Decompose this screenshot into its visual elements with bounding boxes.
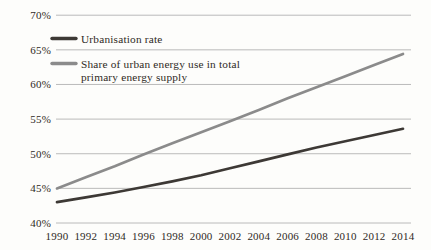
legend-label-share-of-urban-energy-use-in-total-primary-energy-supply-line-2: primary energy supply (81, 71, 187, 83)
x-tick-label-2012: 2012 (363, 230, 386, 242)
x-tick-label-2000: 2000 (190, 230, 213, 242)
y-tick-label-50: 50% (30, 148, 51, 160)
x-tick-label-2008: 2008 (305, 230, 328, 242)
x-tick-label-2014: 2014 (392, 230, 415, 242)
x-tick-label-2002: 2002 (219, 230, 242, 242)
y-tick-label-60: 60% (30, 78, 51, 90)
line-chart: 40%45%50%55%60%65%70%1990199219941996199… (0, 0, 431, 250)
x-tick-label-1994: 1994 (103, 230, 126, 242)
x-tick-label-2004: 2004 (247, 230, 270, 242)
legend-label-share-of-urban-energy-use-in-total-primary-energy-supply-line-1: Share of urban energy use in total (81, 58, 240, 70)
y-tick-label-40: 40% (30, 217, 51, 229)
x-tick-label-1992: 1992 (74, 230, 97, 242)
legend-label-urbanisation-rate: Urbanisation rate (81, 33, 163, 45)
x-tick-label-2010: 2010 (334, 230, 357, 242)
x-tick-label-1998: 1998 (161, 230, 184, 242)
x-tick-label-2006: 2006 (276, 230, 299, 242)
y-tick-label-45: 45% (30, 182, 51, 194)
x-tick-label-1990: 1990 (46, 230, 69, 242)
y-tick-label-55: 55% (30, 113, 51, 125)
y-tick-label-70: 70% (30, 9, 51, 21)
x-tick-label-1996: 1996 (132, 230, 155, 242)
y-tick-label-65: 65% (30, 44, 51, 56)
chart-figure: 40%45%50%55%60%65%70%1990199219941996199… (0, 0, 431, 250)
